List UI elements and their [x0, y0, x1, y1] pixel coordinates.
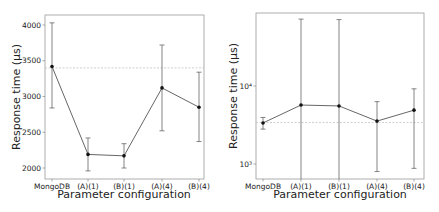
data-point	[50, 65, 54, 69]
y-tick-label: 10⁴	[239, 82, 252, 91]
data-point	[86, 153, 90, 157]
data-point	[122, 154, 126, 158]
data-markers	[261, 103, 416, 125]
x-tick-label: (B)(4)	[188, 182, 210, 191]
y-tick-label: 10³	[239, 160, 252, 169]
data-point	[261, 121, 265, 125]
y-axis-label: Response time (μs)	[10, 44, 23, 150]
y-ticks: 20002500300035004000	[22, 21, 45, 173]
chart-left: 20002500300035004000 MongoDB(A)(1)(B)(1)…	[10, 15, 210, 201]
figure-svg: 20002500300035004000 MongoDB(A)(1)(B)(1)…	[0, 0, 439, 212]
y-tick-label: 2500	[22, 128, 41, 137]
y-tick-label: 2000	[22, 164, 41, 173]
error-bars	[261, 19, 417, 179]
y-tick-label: 4000	[22, 21, 41, 30]
data-point	[412, 108, 416, 112]
data-point	[160, 86, 164, 90]
y-axis-label: Response time (μs)	[227, 43, 240, 149]
x-axis-label: Parameter configuration	[57, 188, 191, 201]
data-line	[263, 105, 414, 123]
data-point	[375, 119, 379, 123]
y-tick-label: 3000	[22, 92, 41, 101]
data-point	[299, 103, 303, 107]
data-point	[337, 104, 341, 108]
y-ticks: 10³10⁴	[239, 82, 256, 169]
y-tick-label: 3500	[22, 56, 41, 65]
plot-frame	[256, 13, 424, 179]
figure: 20002500300035004000 MongoDB(A)(1)(B)(1)…	[0, 0, 439, 212]
data-point	[197, 105, 201, 109]
data-line	[52, 66, 199, 155]
x-axis-label: Parameter configuration	[273, 188, 407, 201]
chart-right: 10³10⁴ MongoDB(A)(1)(B)(1)(A)(4)(B)(4) R…	[227, 13, 425, 201]
